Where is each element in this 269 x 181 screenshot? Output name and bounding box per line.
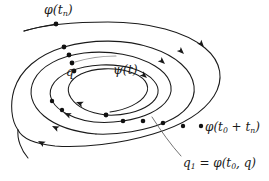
point-c1 — [60, 108, 64, 112]
point-a2 — [67, 53, 72, 58]
label-psi-t: ψ(t) — [113, 64, 138, 77]
q1-leader-line — [152, 117, 181, 156]
orbit-tail-lower-left — [18, 130, 28, 158]
point-b4 — [161, 121, 166, 126]
point-b1 — [104, 113, 109, 118]
orbit-curve-outer — [18, 22, 220, 147]
point-c2 — [50, 99, 54, 103]
point-phi-t0-tn — [199, 124, 203, 128]
arrowhead-r2 — [177, 47, 186, 56]
arrowhead-l3 — [63, 110, 72, 118]
label-q: q — [66, 66, 74, 78]
point-b3 — [141, 119, 146, 124]
point-phi-tn — [54, 22, 59, 27]
spiral-orbit-diagram — [0, 0, 269, 181]
label-phi-tn: φ(tn) — [44, 4, 73, 18]
flow-arrowheads-right — [140, 40, 207, 81]
point-b2 — [121, 119, 126, 124]
faint-center-stroke — [75, 56, 116, 62]
label-phi-t0-plus-tn: φ(t0 + tn) — [205, 121, 260, 135]
flow-arrowheads-lower-left — [37, 99, 84, 147]
orbit-curve-3 — [31, 52, 171, 134]
figure-canvas: φ(tn) q ψ(t) φ(t0 + tn) q1 = φ(t0, q) — [0, 0, 269, 181]
arrowhead-r3 — [158, 57, 167, 66]
orbit-tail-upper-left — [24, 24, 56, 31]
orbit-curve-2 — [12, 41, 195, 134]
point-a1 — [62, 45, 67, 50]
point-b5 — [181, 124, 185, 128]
label-q1-equation: q1 = φ(t0, q) — [183, 157, 256, 171]
